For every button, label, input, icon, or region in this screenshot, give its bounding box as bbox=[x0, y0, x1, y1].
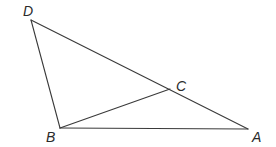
diagram-svg: D B C A bbox=[0, 0, 276, 147]
vertex-label-a: A bbox=[251, 129, 261, 145]
segment-da bbox=[31, 20, 248, 129]
segment-db bbox=[31, 20, 60, 128]
vertex-label-d: D bbox=[23, 3, 33, 19]
vertex-label-c: C bbox=[176, 78, 187, 94]
vertex-label-b: B bbox=[46, 129, 55, 145]
segment-bc bbox=[60, 89, 170, 128]
edges-group bbox=[31, 20, 248, 129]
segment-ba bbox=[60, 128, 248, 129]
geometry-diagram: D B C A bbox=[0, 0, 276, 147]
